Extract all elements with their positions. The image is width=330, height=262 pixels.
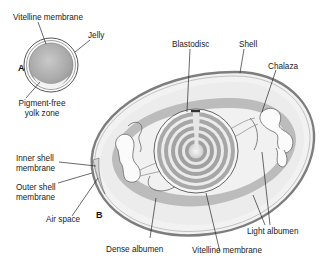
panel-label-b: B — [96, 210, 103, 220]
panel-label-a: A — [18, 63, 25, 73]
panel-b-egg — [92, 72, 314, 235]
label-vitelline-membrane-a: Vitelline membrane — [13, 13, 83, 23]
label-jelly: Jelly — [88, 31, 104, 41]
label-chalaza: Chalaza — [268, 62, 298, 72]
label-blastodisc: Blastodisc — [172, 40, 209, 50]
label-inner-shell-membrane: Inner shell membrane — [16, 154, 55, 173]
label-pigment-free-yolk-zone: Pigment-free yolk zone — [12, 99, 72, 118]
label-shell: Shell — [239, 40, 257, 50]
blastodisc — [191, 110, 200, 112]
label-light-albumen: Light albumen — [247, 227, 298, 237]
label-outer-shell-membrane: Outer shell membrane — [16, 183, 56, 202]
panel-a-ovum — [24, 38, 78, 92]
label-air-space: Air space — [46, 215, 80, 225]
label-vitelline-membrane-b: Vitelline membrane — [192, 246, 262, 256]
yolk — [154, 109, 238, 193]
label-dense-albumen: Dense albumen — [106, 245, 163, 255]
